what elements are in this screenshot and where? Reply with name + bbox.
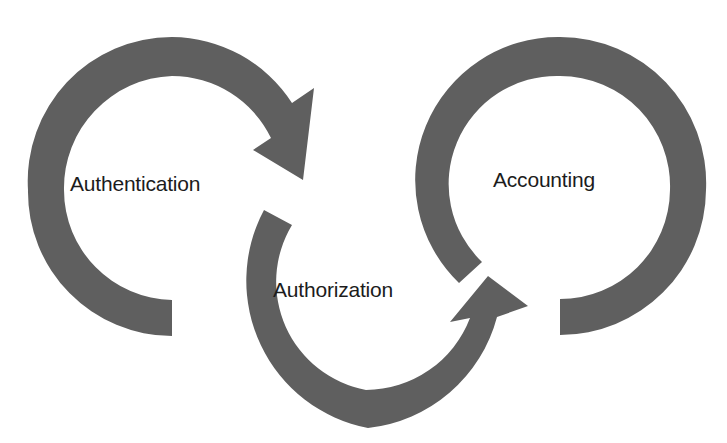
diagram-canvas — [0, 0, 727, 443]
accounting-label: Accounting — [493, 168, 595, 192]
aaa-diagram: Authentication Authorization Accounting — [0, 0, 727, 443]
authorization-arrow-icon — [246, 210, 528, 428]
authentication-label: Authentication — [70, 172, 200, 196]
authorization-label: Authorization — [273, 278, 393, 302]
